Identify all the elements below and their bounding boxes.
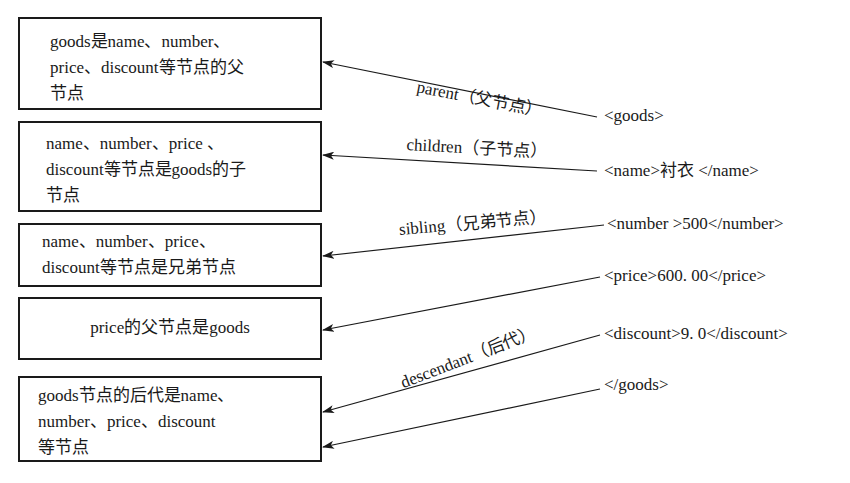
xml-goods-open: <goods> (604, 106, 664, 126)
box-line: 等节点 (38, 435, 313, 461)
box-line: price、discount等节点的父 (50, 55, 315, 81)
xml-price-element: <price>600. 00</price> (604, 266, 766, 286)
box-line: name、number、price 、 (46, 131, 316, 157)
xml-goods-close: </goods> (604, 375, 669, 395)
arrow-price-parent (323, 277, 600, 330)
parent-description-box: goods是name、number、 price、discount等节点的父 节… (18, 17, 322, 110)
xml-number-element: <number >500</number> (607, 214, 784, 234)
box-line: price的父节点是goods (20, 315, 320, 341)
xml-discount-element: <discount>9. 0</discount> (604, 324, 788, 344)
price-parent-box: price的父节点是goods (18, 297, 322, 360)
descendant-description-box: goods节点的后代是name、 number、price、discount 等… (18, 376, 322, 462)
xml-name-element: <name>衬衣 </name> (604, 161, 759, 181)
box-line: 节点 (46, 183, 316, 209)
arrow-goods-close (323, 389, 600, 447)
box-line: goods节点的后代是name、 (38, 383, 313, 409)
sibling-description-box: name、number、price、 discount等节点是兄弟节点 (18, 223, 322, 287)
box-line: 节点 (50, 81, 315, 107)
box-line: number、price、discount (38, 409, 313, 435)
box-line: discount等节点是兄弟节点 (42, 255, 317, 281)
box-line: goods是name、number、 (50, 29, 315, 55)
children-description-box: name、number、price 、 discount等节点是goods的子 … (18, 121, 322, 212)
box-line: discount等节点是goods的子 (46, 157, 316, 183)
box-line: name、number、price、 (42, 229, 317, 255)
